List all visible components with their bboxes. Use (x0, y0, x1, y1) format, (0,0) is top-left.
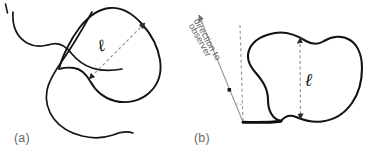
figure-root: (a) (b) ℓ ℓ direction to observer (0, 0, 369, 158)
figure-drawing (0, 0, 369, 158)
panel-a-wavy-curve-upper (13, 12, 122, 70)
panel-a-label: (a) (14, 131, 30, 145)
panel-b-length-label: ℓ (305, 70, 313, 91)
panel-b-angle-arc (237, 104, 242, 105)
panel-b-vertical-reference-line (240, 25, 243, 122)
panel-b-label: (b) (194, 131, 210, 145)
panel-b-angle-marker-dot (228, 88, 232, 92)
panel-a-wavy-curve-lower (46, 12, 133, 138)
panel-a-blob-outline (59, 8, 161, 102)
panel-b-measure-dashed-line (300, 39, 301, 119)
crop-tick-mark (6, 4, 8, 13)
panel-b-shadow-line (243, 121, 281, 122)
